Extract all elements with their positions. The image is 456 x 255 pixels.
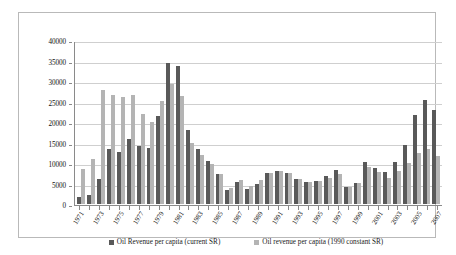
bar-group <box>382 42 392 204</box>
bar <box>298 179 302 204</box>
bar-group <box>431 42 441 204</box>
bar <box>170 84 174 204</box>
x-axis-label-cell: 1985 <box>213 209 223 235</box>
bar-group <box>126 42 136 204</box>
x-axis-label-cell: 1993 <box>293 209 303 235</box>
bar-group <box>362 42 372 204</box>
bar-group <box>155 42 165 204</box>
bar <box>111 95 115 204</box>
bar-series-container <box>76 42 442 204</box>
y-axis-tick <box>69 83 72 84</box>
bar-group <box>106 42 116 204</box>
y-axis-tick-label: 40000 <box>49 38 66 46</box>
y-axis-tick <box>69 42 72 43</box>
y-axis-tick <box>69 63 72 64</box>
bar-group <box>343 42 353 204</box>
y-axis-tick <box>69 124 72 125</box>
x-axis-label-cell: 1991 <box>273 209 283 235</box>
bar <box>387 178 391 204</box>
bar-group <box>392 42 402 204</box>
legend-item: Oil revenue per capita (1990 constant SR… <box>254 238 383 246</box>
bar-group <box>372 42 382 204</box>
bar <box>308 182 312 204</box>
bar-group <box>274 42 284 204</box>
bar <box>210 164 214 204</box>
bar <box>417 153 421 204</box>
x-axis-label-cell: 1971 <box>74 209 84 235</box>
x-axis-label-cell: 1981 <box>174 209 184 235</box>
x-axis-label-cell: 2003 <box>393 209 403 235</box>
bar-group <box>205 42 215 204</box>
bar <box>141 114 145 204</box>
bar <box>81 169 85 204</box>
x-axis-label-cell: 1975 <box>114 209 124 235</box>
bar <box>377 172 381 204</box>
bar-group <box>333 42 343 204</box>
bar-group <box>77 42 87 204</box>
y-axis-tick-label: 30000 <box>49 79 66 87</box>
y-axis-tick-label: 25000 <box>49 100 66 108</box>
bar <box>269 173 273 204</box>
bar <box>348 187 352 204</box>
x-axis-label-cell: 1977 <box>134 209 144 235</box>
x-axis-label-cell: 1997 <box>333 209 343 235</box>
x-axis-label-cell: 2005 <box>412 209 422 235</box>
x-axis-label-cell: 1989 <box>253 209 263 235</box>
x-axis-label-cell: 2001 <box>373 209 383 235</box>
bar-group <box>136 42 146 204</box>
bar <box>338 174 342 204</box>
bar <box>219 174 223 204</box>
bar-group <box>146 42 156 204</box>
y-axis-tick <box>69 206 72 207</box>
bar <box>318 181 322 204</box>
legend-swatch-icon <box>109 240 114 245</box>
x-axis-label-cell: 1973 <box>94 209 104 235</box>
bar-group <box>224 42 234 204</box>
bar <box>200 155 204 204</box>
bar <box>259 180 263 204</box>
bar <box>190 143 194 205</box>
x-axis-label-cell: 1987 <box>233 209 243 235</box>
x-axis-label-cell: 1999 <box>353 209 363 235</box>
figure-frame: 0500010000150002000025000300003500040000… <box>18 12 436 238</box>
bar <box>239 180 243 204</box>
bar-group <box>165 42 175 204</box>
chart-legend: Oil Revenue per capita (current SR)Oil r… <box>37 235 455 249</box>
y-axis-tick <box>69 104 72 105</box>
bar-group <box>412 42 422 204</box>
bar <box>180 96 184 204</box>
bar <box>288 173 292 204</box>
y-axis-tick <box>69 165 72 166</box>
y-axis-tick <box>69 186 72 187</box>
plot-area-wrapper <box>74 42 442 206</box>
bar-group <box>234 42 244 204</box>
x-axis-labels: 1971197319751977197919811983198519871989… <box>74 209 442 235</box>
x-axis-label-cell: 1995 <box>313 209 323 235</box>
y-axis-tick-label: 10000 <box>49 161 66 169</box>
y-axis-tick-label: 0 <box>63 202 67 210</box>
bar <box>279 171 283 204</box>
plot-area <box>74 42 442 206</box>
bar-group <box>244 42 254 204</box>
bar <box>407 163 411 204</box>
x-axis-label-cell: 1979 <box>154 209 164 235</box>
legend-label: Oil revenue per capita (1990 constant SR… <box>262 238 383 246</box>
bar-group <box>185 42 195 204</box>
bar-group <box>175 42 185 204</box>
bar-group <box>313 42 323 204</box>
bar-group <box>215 42 225 204</box>
bar-group <box>116 42 126 204</box>
bar <box>427 149 431 204</box>
bar-group <box>323 42 333 204</box>
x-axis-label-cell: 2007 <box>432 209 442 235</box>
bar-group <box>195 42 205 204</box>
bar-group <box>303 42 313 204</box>
bar-group <box>254 42 264 204</box>
x-axis-tick-label: 2007 <box>430 210 444 226</box>
bar-group <box>96 42 106 204</box>
legend-label: Oil Revenue per capita (current SR) <box>117 238 221 246</box>
bar-group <box>422 42 432 204</box>
bar <box>328 178 332 204</box>
bar-group <box>402 42 412 204</box>
bar <box>367 167 371 204</box>
